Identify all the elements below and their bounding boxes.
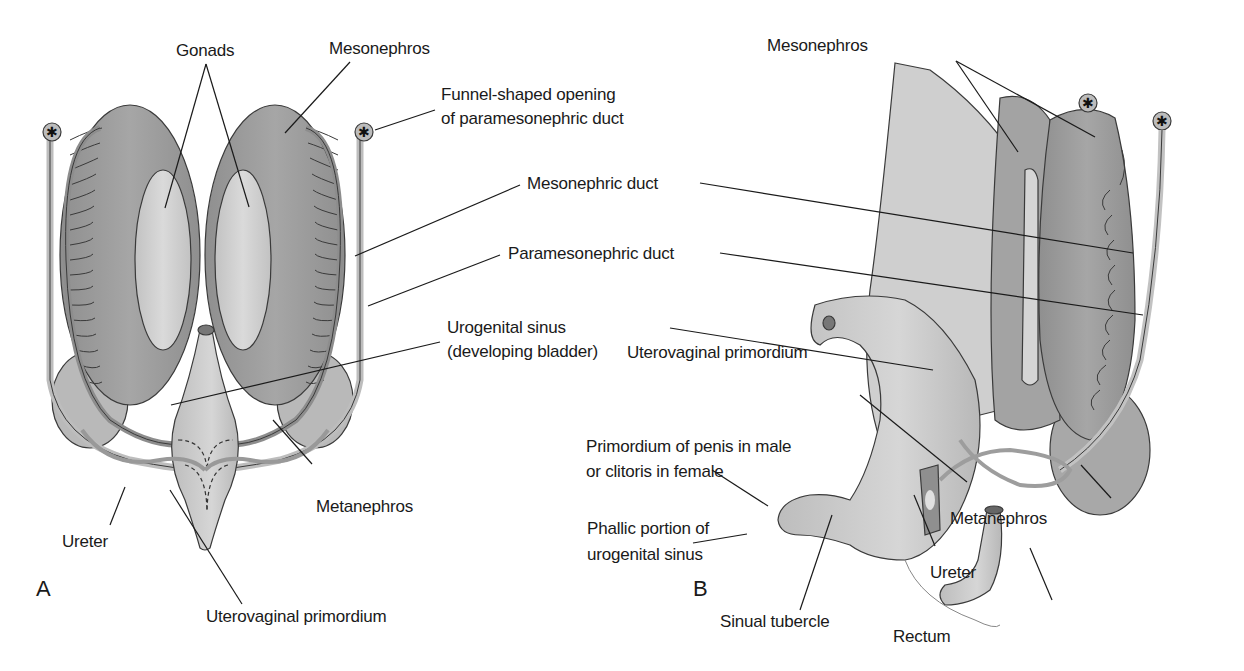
label-uterovaginal-b: Uterovaginal primordium: [627, 342, 808, 363]
label-funnel-line1: Funnel-shaped opening: [441, 84, 615, 105]
label-urogenital-line1: Urogenital sinus: [447, 317, 566, 338]
label-phallic-line1: Phallic portion of: [587, 518, 709, 539]
label-mesonephros-b: Mesonephros: [767, 35, 868, 56]
label-primordium-line2: or clitoris in female: [586, 461, 724, 482]
gonad-right: [215, 170, 271, 350]
gonad-left: [135, 170, 191, 350]
label-metanephros-b: Metanephros: [950, 508, 1047, 529]
svg-text:✱: ✱: [46, 124, 58, 140]
panel-b-illustration: ✱ ✱: [778, 63, 1171, 627]
panel-label-b: B: [693, 576, 708, 602]
label-primordium-line1: Primordium of penis in male: [586, 436, 791, 457]
label-metanephros-a: Metanephros: [316, 496, 413, 517]
label-mesonephric-duct: Mesonephric duct: [527, 173, 658, 194]
label-uterovaginal-a: Uterovaginal primordium: [206, 606, 387, 627]
svg-text:✱: ✱: [358, 124, 370, 140]
label-rectum: Rectum: [893, 626, 950, 647]
label-ureter-a: Ureter: [62, 531, 108, 552]
svg-text:✱: ✱: [1156, 113, 1168, 129]
label-paramesonephric-duct: Paramesonephric duct: [508, 243, 674, 264]
label-phallic-line2: urogenital sinus: [587, 544, 703, 565]
panel-a-illustration: ✱ ✱: [43, 105, 373, 550]
label-gonads: Gonads: [176, 40, 234, 61]
label-sinual-tubercle: Sinual tubercle: [720, 611, 829, 632]
panel-label-a: A: [36, 576, 51, 602]
label-ureter-b: Ureter: [930, 562, 976, 583]
mesonephros-b-front: [1039, 109, 1135, 440]
svg-text:✱: ✱: [1082, 95, 1094, 111]
label-funnel-line2: of paramesonephric duct: [441, 108, 624, 129]
label-urogenital-line2: (developing bladder): [447, 341, 598, 362]
label-mesonephros-a: Mesonephros: [329, 38, 430, 59]
embryology-diagram: ✱ ✱: [0, 0, 1244, 671]
